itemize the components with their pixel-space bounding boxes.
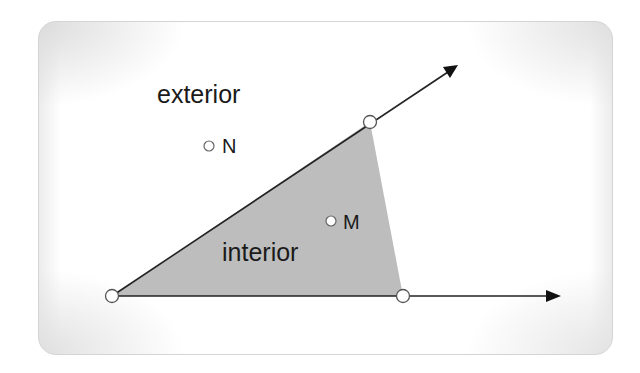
lower-arrowhead-icon [546,290,561,302]
interior-label: interior [222,240,298,265]
lower-ray-point [397,290,410,303]
upper-arrowhead-icon [443,65,458,78]
point-m-marker [326,216,336,226]
vertex-point [106,290,119,303]
point-n-label: N [222,136,236,156]
exterior-label: exterior [157,82,240,107]
angle-diagram [0,0,640,373]
interior-region [112,122,403,296]
point-n-marker [204,141,214,151]
upper-ray-point [364,116,377,129]
point-m-label: M [343,212,360,232]
